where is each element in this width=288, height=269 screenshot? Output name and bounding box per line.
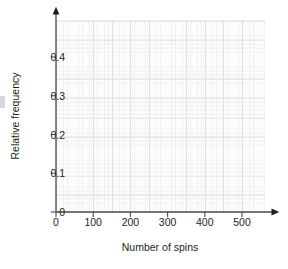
x-tick-label-300: 300 — [159, 216, 177, 228]
x-tick-label-100: 100 — [84, 216, 102, 228]
x-tick-label-200: 200 — [122, 216, 140, 228]
y-tick-label-0-2: 0.2 — [50, 129, 65, 141]
y-tick-label-0: 0 — [59, 206, 65, 218]
y-tick-label-0-4: 0.4 — [50, 51, 65, 63]
x-tick-label-400: 400 — [196, 216, 214, 228]
axes-layer — [0, 0, 288, 269]
x-axis-title: Number of spins — [122, 241, 198, 253]
relative-frequency-chart: 0 100 200 300 400 500 0 0.1 0.2 0.3 0.4 … — [0, 0, 288, 269]
page-edge-artifact — [0, 96, 5, 108]
x-tick-label-0: 0 — [53, 216, 59, 228]
y-axis-title: Relative frequency — [9, 73, 21, 160]
y-tick-label-0-3: 0.3 — [50, 90, 65, 102]
x-tick-label-500: 500 — [233, 216, 251, 228]
y-tick-label-0-1: 0.1 — [50, 167, 65, 179]
